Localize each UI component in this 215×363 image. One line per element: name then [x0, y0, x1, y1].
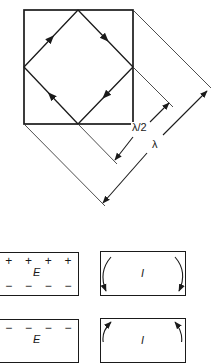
- e-field-label: E: [33, 333, 40, 345]
- charge-sign: −: [45, 321, 52, 335]
- charge-sign: −: [5, 321, 12, 335]
- e-field-box-2: − − − − E: [0, 319, 79, 363]
- charge-sign: −: [65, 279, 72, 293]
- negative-charge-row: − − − −: [0, 279, 78, 293]
- diamond-edge-left-top: [24, 10, 78, 67]
- current-label: I: [141, 267, 144, 279]
- charge-sign: +: [45, 254, 52, 268]
- charge-sign: −: [25, 279, 32, 293]
- charge-sign: +: [5, 254, 12, 268]
- half-wavelength-label: λ/2: [131, 122, 148, 133]
- current-box-2: I: [100, 318, 186, 363]
- diamond-edge-right-bottom: [78, 67, 133, 124]
- diamond-edge-bottom-left: [24, 67, 78, 124]
- charge-sign: +: [25, 254, 32, 268]
- charge-sign: −: [25, 321, 32, 335]
- diamond-mode-path: [24, 10, 133, 124]
- current-box-1: I: [100, 251, 186, 296]
- e-field-label: E: [33, 266, 40, 278]
- charge-sign: −: [45, 279, 52, 293]
- charge-sign: −: [65, 321, 72, 335]
- charge-sign: −: [5, 279, 12, 293]
- current-label: I: [141, 334, 144, 346]
- diamond-edge-top-right: [78, 10, 133, 67]
- extension-lines: [24, 10, 211, 206]
- e-field-box-1: + + + + E − − − −: [0, 252, 79, 296]
- wavelength-label: λ: [151, 139, 159, 150]
- charge-sign: +: [65, 254, 72, 268]
- resonator-square: [24, 10, 133, 124]
